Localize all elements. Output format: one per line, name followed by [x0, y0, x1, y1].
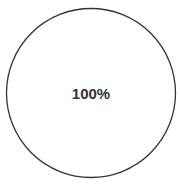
pie-chart: 100%: [0, 0, 180, 187]
slice-label: 100%: [72, 85, 110, 102]
